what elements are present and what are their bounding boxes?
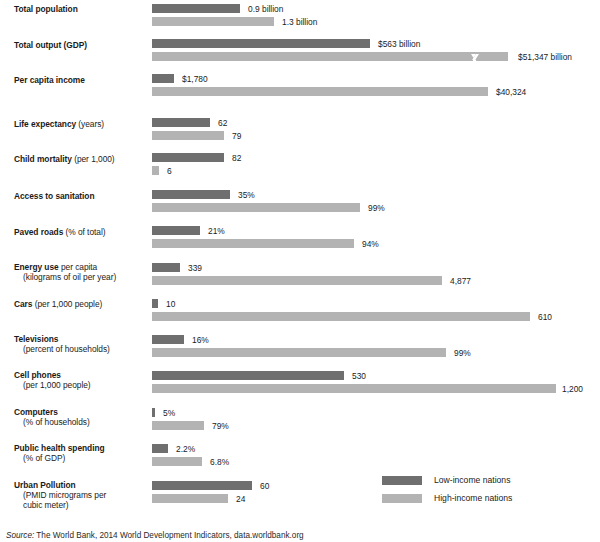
chart-plot-area: Total population0.9 billion1.3 billionTo… — [0, 0, 600, 520]
row-label-urban-pollution: Urban Pollution(PMID micrograms percubic… — [14, 480, 148, 511]
row-label-televisions: Televisions(percent of households) — [14, 334, 148, 354]
bar-access-to-sanitation-high — [152, 203, 360, 212]
bar-value-total-population-low: 0.9 billion — [248, 4, 283, 14]
bar-value-televisions-high: 99% — [454, 348, 471, 358]
bar-value-energy-use-per-capita-high: 4,877 — [450, 276, 471, 286]
bar-cell-phones-low — [152, 371, 344, 380]
row-label-primary: Computers — [14, 407, 58, 417]
row-label-line: Paved roads (% of total) — [14, 227, 148, 237]
bar-value-cell-phones-high: 1,200 — [562, 384, 583, 394]
row-label-qualifier: (PMID micrograms per — [23, 490, 106, 500]
source-text: The World Bank, 2014 World Development I… — [36, 531, 303, 540]
bar-per-capita-income-low — [152, 74, 174, 83]
row-label-total-output-gdp: Total output (GDP) — [14, 40, 148, 50]
bar-life-expectancy-high — [152, 131, 224, 140]
row-label-line: Urban Pollution — [14, 480, 148, 490]
legend-swatch-low-income-icon — [382, 476, 422, 485]
row-label-line: (% of GDP) — [14, 453, 148, 463]
bar-energy-use-per-capita-high — [152, 276, 442, 285]
bar-paved-roads-high — [152, 239, 354, 248]
row-label-line: cubic meter) — [14, 500, 148, 510]
row-label-line: Energy use per capita — [14, 262, 148, 272]
row-label-line: (% of households) — [14, 417, 148, 427]
bar-value-public-health-spending-low: 2.2% — [176, 444, 195, 454]
row-label-line: Child mortality (per 1,000) — [14, 154, 148, 164]
row-label-qualifier: (per 1,000) — [72, 154, 115, 164]
row-label-qualifier: (% of total) — [63, 227, 105, 237]
row-label-line: Total output (GDP) — [14, 40, 148, 50]
legend-swatch-high-income-icon — [382, 494, 422, 503]
row-label-line: (PMID micrograms per — [14, 490, 148, 500]
row-label-access-to-sanitation: Access to sanitation — [14, 191, 148, 201]
row-label-primary: Public health spending — [14, 443, 105, 453]
row-label-per-capita-income: Per capita income — [14, 75, 148, 85]
bar-per-capita-income-high — [152, 87, 488, 96]
bar-life-expectancy-low — [152, 118, 210, 127]
bar-value-per-capita-income-high: $40,324 — [496, 87, 526, 97]
bar-public-health-spending-low — [152, 444, 168, 453]
row-label-primary: Urban Pollution — [14, 480, 76, 490]
row-label-primary: Energy use — [14, 262, 59, 272]
bar-value-total-output-gdp-low: $563 billion — [378, 39, 420, 49]
bar-energy-use-per-capita-low — [152, 263, 180, 272]
row-label-qualifier: (per 1,000 people) — [23, 380, 91, 390]
bar-televisions-low — [152, 335, 184, 344]
bar-paved-roads-low — [152, 226, 200, 235]
bar-child-mortality-high — [152, 166, 159, 175]
row-label-primary: Child mortality — [14, 154, 72, 164]
row-label-primary: Paved roads — [14, 227, 63, 237]
row-label-line: Total population — [14, 4, 148, 14]
bar-value-computers-low: 5% — [163, 408, 175, 418]
row-label-cell-phones: Cell phones(per 1,000 people) — [14, 370, 148, 390]
bar-cell-phones-high — [152, 384, 556, 393]
row-label-qualifier: (% of GDP) — [23, 453, 65, 463]
bar-televisions-high — [152, 348, 446, 357]
bar-value-cell-phones-low: 530 — [352, 371, 366, 381]
row-label-line: Computers — [14, 407, 148, 417]
bar-value-access-to-sanitation-low: 35% — [238, 190, 255, 200]
bar-value-urban-pollution-high: 24 — [236, 494, 245, 504]
row-label-cars: Cars (per 1,000 people) — [14, 299, 148, 309]
row-label-line: Life expectancy (years) — [14, 119, 148, 129]
bar-value-total-output-gdp-high: $51,347 billion — [518, 52, 572, 62]
bar-child-mortality-low — [152, 153, 224, 162]
row-label-life-expectancy: Life expectancy (years) — [14, 119, 148, 129]
row-label-primary: Life expectancy — [14, 119, 76, 129]
row-label-line: Public health spending — [14, 443, 148, 453]
bar-value-public-health-spending-high: 6.8% — [210, 457, 229, 467]
bar-value-energy-use-per-capita-low: 339 — [188, 263, 202, 273]
row-label-qualifier: cubic meter) — [23, 500, 68, 510]
row-label-primary: Cell phones — [14, 370, 61, 380]
bar-total-population-high — [152, 17, 274, 26]
row-label-primary: Total output (GDP) — [14, 40, 87, 50]
bar-urban-pollution-low — [152, 481, 252, 490]
row-label-line: Televisions — [14, 334, 148, 344]
bar-value-computers-high: 79% — [212, 421, 229, 431]
bar-urban-pollution-high — [152, 494, 228, 503]
row-label-paved-roads: Paved roads (% of total) — [14, 227, 148, 237]
bar-total-output-gdp-low — [152, 39, 370, 48]
bar-cars-low — [152, 299, 158, 308]
bar-value-cars-high: 610 — [538, 312, 552, 322]
row-label-line: Per capita income — [14, 75, 148, 85]
legend-item-low-income: Low-income nations — [382, 474, 582, 488]
bar-cars-high — [152, 312, 530, 321]
row-label-line: Cell phones — [14, 370, 148, 380]
row-label-total-population: Total population — [14, 4, 148, 14]
row-label-primary: Total population — [14, 4, 78, 14]
bar-total-output-gdp-high — [152, 52, 508, 61]
row-label-qualifier: per capita — [59, 262, 98, 272]
bar-total-population-low — [152, 4, 240, 13]
row-label-computers: Computers(% of households) — [14, 407, 148, 427]
row-label-qualifier: (kilograms of oil per year) — [23, 272, 116, 282]
bar-access-to-sanitation-low — [152, 190, 230, 199]
legend-item-high-income: High-income nations — [382, 492, 582, 506]
legend-label-low-income: Low-income nations — [434, 474, 510, 486]
row-label-line: (percent of households) — [14, 344, 148, 354]
row-label-primary: Per capita income — [14, 75, 85, 85]
row-label-public-health-spending: Public health spending(% of GDP) — [14, 443, 148, 463]
bar-value-access-to-sanitation-high: 99% — [368, 203, 385, 213]
bar-computers-high — [152, 421, 204, 430]
legend-label-high-income: High-income nations — [434, 492, 512, 504]
row-label-line: Access to sanitation — [14, 191, 148, 201]
